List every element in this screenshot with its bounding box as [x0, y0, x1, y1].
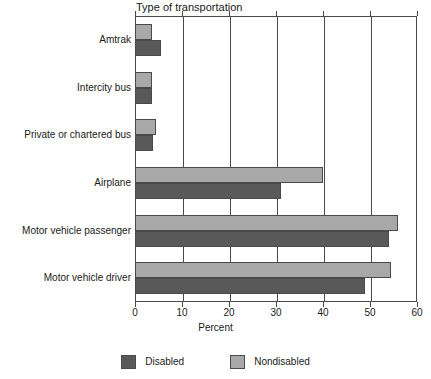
category-label: Intercity bus — [0, 82, 131, 94]
axis-tick — [370, 302, 371, 307]
legend-item: Nondisabled — [230, 355, 310, 369]
axis-tick — [182, 302, 183, 307]
x-tick-label: 30 — [261, 307, 291, 319]
category-label: Private or chartered bus — [0, 129, 131, 141]
bar-nondisabled — [135, 24, 152, 40]
bar-nondisabled — [135, 119, 156, 135]
x-tick-label: 0 — [120, 307, 150, 319]
bars-layer — [135, 16, 417, 302]
axis-tick — [135, 302, 136, 307]
bar-chart: Type of transportation AmtrakIntercity b… — [0, 0, 431, 379]
axis-tick — [229, 302, 230, 307]
bar-disabled — [135, 40, 161, 56]
bar-disabled — [135, 135, 153, 151]
chart-legend: DisabledNondisabled — [0, 355, 431, 369]
bar-nondisabled — [135, 215, 398, 231]
bar-disabled — [135, 231, 389, 247]
axis-tick — [182, 11, 183, 16]
legend-swatch-disabled — [121, 355, 136, 369]
axis-tick — [276, 11, 277, 16]
axis-tick — [229, 11, 230, 16]
legend-item: Disabled — [121, 355, 184, 369]
x-tick-label: 20 — [214, 307, 244, 319]
chart-title: Type of transportation — [136, 0, 242, 14]
bar-disabled — [135, 278, 365, 294]
category-label: Motor vehicle passenger — [0, 225, 131, 237]
axis-tick — [276, 302, 277, 307]
category-label: Motor vehicle driver — [0, 272, 131, 284]
axis-tick — [417, 302, 418, 307]
category-label: Airplane — [0, 177, 131, 189]
bar-nondisabled — [135, 167, 323, 183]
bar-disabled — [135, 88, 152, 104]
x-tick-label: 60 — [402, 307, 431, 319]
axis-tick — [323, 11, 324, 16]
x-tick-label: 50 — [355, 307, 385, 319]
category-axis-labels: AmtrakIntercity busPrivate or chartered … — [0, 16, 131, 302]
legend-swatch-nondisabled — [230, 355, 245, 369]
x-axis-title: Percent — [0, 322, 431, 334]
legend-label: Nondisabled — [254, 356, 310, 368]
bar-nondisabled — [135, 72, 152, 88]
x-tick-label: 10 — [167, 307, 197, 319]
axis-tick — [370, 11, 371, 16]
category-label: Amtrak — [0, 34, 131, 46]
x-tick-label: 40 — [308, 307, 338, 319]
axis-tick — [135, 11, 136, 16]
axis-tick — [417, 11, 418, 16]
axis-tick — [323, 302, 324, 307]
bar-disabled — [135, 183, 281, 199]
bar-nondisabled — [135, 262, 391, 278]
legend-label: Disabled — [145, 356, 184, 368]
